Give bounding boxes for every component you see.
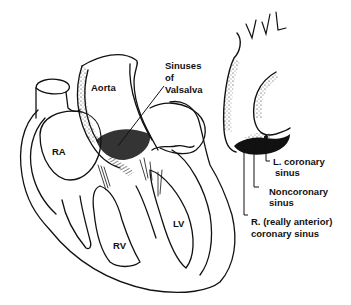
label-l-coronary-sinus-2: sinus <box>275 167 300 178</box>
handwritten-annotation <box>246 12 286 38</box>
label-sinuses-line2: of <box>165 72 174 83</box>
label-r-coronary-sinus-1: R. (really anterior) <box>251 216 332 227</box>
label-r-coronary-sinus-2: coronary sinus <box>251 228 319 239</box>
svc <box>36 79 69 94</box>
label-noncoronary-sinus-2: sinus <box>269 197 294 208</box>
label-sinuses-line1: Sinuses <box>165 60 201 71</box>
label-noncoronary-sinus-1: Noncoronary <box>269 186 328 197</box>
label-sinuses-line3: Valsalva <box>165 84 203 95</box>
label-rv: RV <box>113 240 126 251</box>
label-lv: LV <box>173 218 184 229</box>
label-l-coronary-sinus-1: L. coronary <box>273 156 325 167</box>
label-aorta: Aorta <box>91 82 116 93</box>
aortic-valve <box>96 129 150 160</box>
rv-chamber <box>93 186 140 267</box>
label-ra: RA <box>52 146 66 157</box>
lv-chamber <box>150 170 193 268</box>
